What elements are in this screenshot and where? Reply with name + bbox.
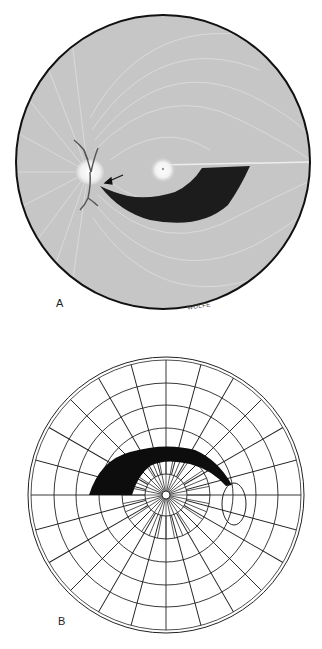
panel-label-b: B: [58, 615, 65, 627]
fundus-drawing: [0, 0, 322, 320]
panel-label-a: A: [56, 297, 63, 309]
panel-a-fundus: A WOLFE: [0, 0, 322, 320]
blind-spot: [222, 483, 246, 525]
arcuate-scotoma: [89, 446, 232, 495]
polar-grid: [28, 357, 304, 633]
fovea-center: [162, 168, 164, 170]
panel-b-visual-field: B: [0, 320, 322, 649]
visual-field-chart: [0, 320, 322, 649]
